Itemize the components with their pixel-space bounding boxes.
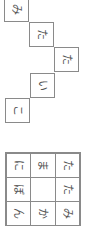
grid-cell[interactable]: み xyxy=(55,201,81,226)
cell-char: い xyxy=(37,80,48,91)
chain-cell-3[interactable]: た xyxy=(54,47,79,72)
cell-char: た xyxy=(36,29,47,40)
grid-cell[interactable]: に xyxy=(6,153,32,178)
chain-cell-5[interactable]: こ xyxy=(5,98,30,123)
grid-cell[interactable]: ん xyxy=(6,201,32,226)
cell-char: み xyxy=(62,208,73,219)
chain-cell-1[interactable]: み xyxy=(4,0,29,22)
cell-char: た xyxy=(62,184,73,195)
grid-cell[interactable]: ぼ xyxy=(6,177,32,202)
cell-char: か xyxy=(37,208,48,219)
cell-char: た xyxy=(62,160,73,171)
cell-char: た xyxy=(61,54,72,65)
grid-cell[interactable]: た xyxy=(55,177,81,202)
cell-char: に xyxy=(13,160,24,171)
cell-char: こ xyxy=(12,105,23,116)
chain-cell-4[interactable]: い xyxy=(30,73,55,98)
cell-char: ぼ xyxy=(13,184,24,195)
grid-cell[interactable]: た xyxy=(55,153,81,178)
cell-char: み xyxy=(11,4,22,15)
grid-cell[interactable]: ま xyxy=(30,153,56,178)
chain-cell-2[interactable]: た xyxy=(29,22,54,47)
letter-grid: に ま た ぼ た ん か み xyxy=(5,152,81,226)
cell-char: ん xyxy=(13,208,24,219)
cell-char: ま xyxy=(37,160,48,171)
grid-cell[interactable]: か xyxy=(30,201,56,226)
grid-cell-empty[interactable] xyxy=(30,177,56,202)
